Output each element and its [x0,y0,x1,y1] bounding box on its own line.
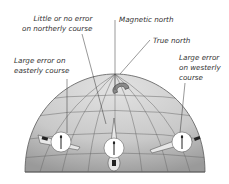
globe-diagram [0,0,229,184]
